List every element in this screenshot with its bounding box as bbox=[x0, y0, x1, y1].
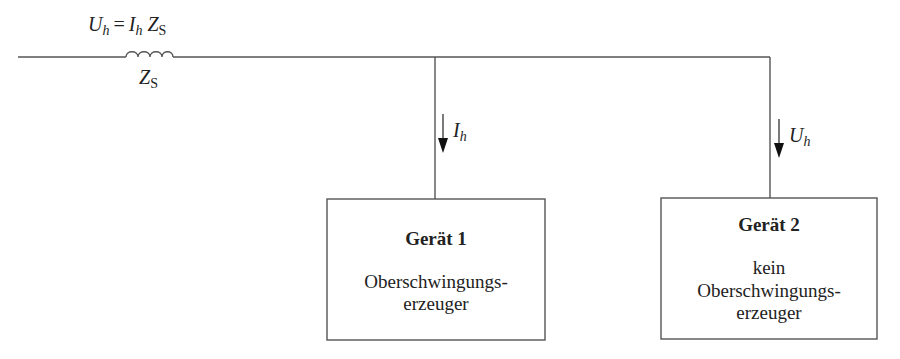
device-2-desc-line-1: kein bbox=[753, 257, 786, 278]
current-arrow-icon bbox=[438, 114, 448, 153]
equation-label: Uh=IhZS bbox=[88, 13, 166, 38]
device-1-desc-line-1: Oberschwingungs- bbox=[364, 271, 508, 292]
current-label: Ih bbox=[452, 119, 467, 144]
device-1-desc-line-2: erzeuger bbox=[403, 293, 469, 314]
voltage-arrow-icon bbox=[774, 119, 784, 158]
device-2-desc-line-2: Oberschwingungs- bbox=[697, 280, 841, 301]
device-1-box bbox=[327, 199, 545, 340]
impedance-label: ZS bbox=[139, 66, 158, 91]
voltage-label: Uh bbox=[789, 124, 810, 149]
device-2-title: Gerät 2 bbox=[738, 214, 800, 235]
device-2-desc-line-3: erzeuger bbox=[736, 302, 802, 323]
circuit-diagram: Uh=IhZS ZS Ih Gerät 1 Oberschwingungs- e… bbox=[0, 0, 900, 359]
inductor-icon bbox=[126, 52, 173, 57]
device-1-title: Gerät 1 bbox=[405, 228, 467, 249]
